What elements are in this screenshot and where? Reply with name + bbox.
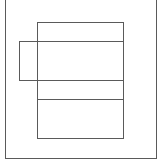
divider-2 xyxy=(37,80,124,81)
side-box xyxy=(19,41,38,81)
divider-1 xyxy=(37,41,124,42)
divider-3 xyxy=(37,99,124,100)
